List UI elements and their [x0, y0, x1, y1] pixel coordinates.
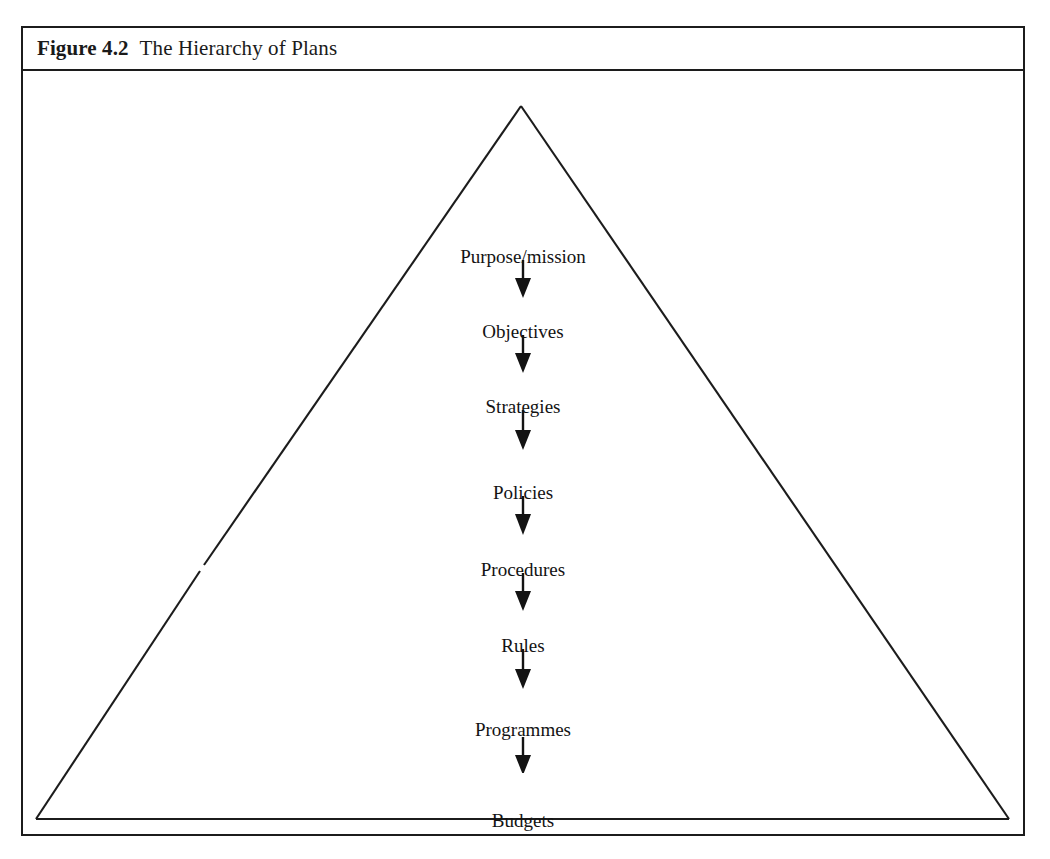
figure-number: Figure 4.2 [37, 36, 129, 61]
figure-caption-bar: Figure 4.2 The Hierarchy of Plans [23, 28, 1023, 71]
hierarchy-pyramid-icon [23, 71, 1023, 834]
diagram-canvas: Purpose/mission Objectives Strat [23, 71, 1023, 834]
figure-title: The Hierarchy of Plans [140, 36, 338, 61]
figure-frame: Figure 4.2 The Hierarchy of Plans Purpos… [21, 26, 1025, 836]
figure-root: Figure 4.2 The Hierarchy of Plans Purpos… [0, 0, 1050, 859]
